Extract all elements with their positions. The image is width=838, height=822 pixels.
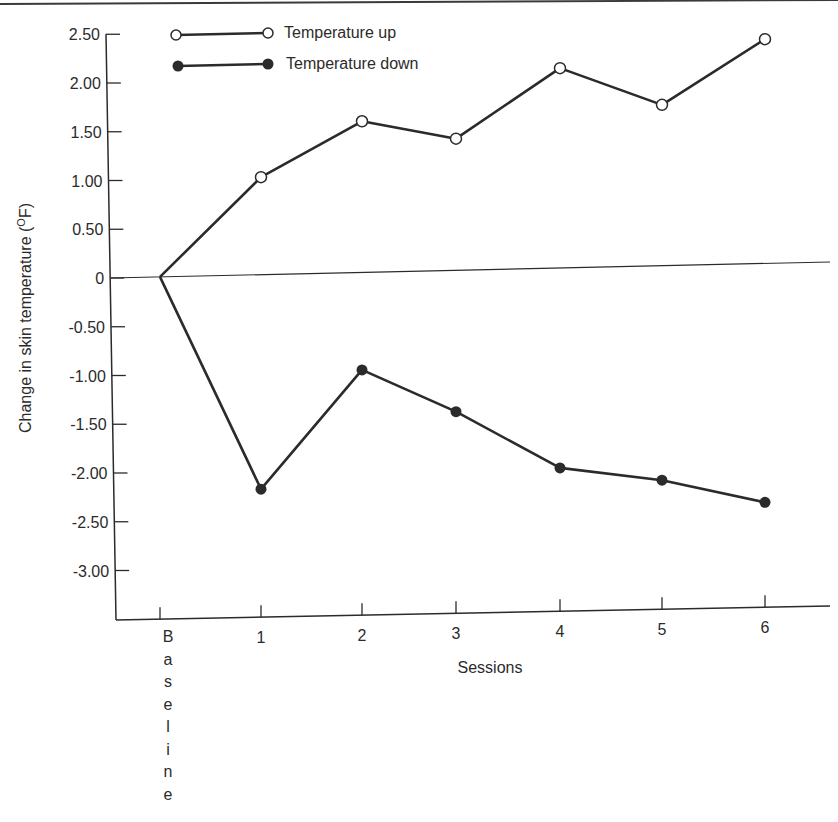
- line-chart: 2.502.001.501.000.500-0.50-1.00-1.50-2.0…: [0, 0, 838, 822]
- x-tick-label: 6: [761, 619, 770, 636]
- filled-circle-marker-icon: [555, 462, 566, 473]
- open-circle-marker-icon: [451, 133, 462, 144]
- x-tick-label: 5: [658, 621, 667, 638]
- open-circle-marker-icon: [760, 34, 771, 45]
- open-circle-marker-icon: [555, 63, 566, 74]
- page-top-border: [0, 0, 838, 4]
- x-axis: [116, 606, 830, 620]
- x-tick-label: 1: [257, 629, 266, 646]
- x-tick-label: 3: [452, 625, 461, 642]
- baseline-label-letter: B: [163, 628, 174, 645]
- y-tick-label: 2.50: [69, 26, 100, 43]
- baseline-label-letter: l: [166, 718, 170, 735]
- y-tick-label: 2.00: [70, 75, 101, 92]
- zero-line: [110, 262, 830, 278]
- y-tick-label: -0.50: [69, 319, 106, 336]
- legend-filled-circle-icon: [263, 59, 274, 70]
- open-circle-marker-icon: [357, 116, 368, 127]
- x-axis-ticks: 123456Baseline: [160, 595, 770, 802]
- legend-down-line: [178, 64, 268, 66]
- filled-circle-marker-icon: [256, 484, 267, 495]
- x-tick-label: 2: [358, 627, 367, 644]
- baseline-label-letter: s: [164, 673, 172, 690]
- x-axis-title: Sessions: [458, 659, 523, 676]
- series-line: [160, 39, 765, 277]
- baseline-label-letter: a: [164, 651, 173, 668]
- baseline-label-letter: e: [164, 786, 173, 803]
- y-tick-label: -1.50: [70, 416, 107, 433]
- legend-open-circle-icon: [263, 28, 273, 38]
- series-line: [160, 277, 765, 502]
- legend-open-circle-icon: [171, 30, 181, 40]
- filled-circle-marker-icon: [357, 364, 368, 375]
- series-temperature-down: [160, 277, 771, 508]
- y-tick-label: -2.00: [71, 465, 108, 482]
- baseline-label-letter: n: [164, 763, 173, 780]
- x-tick-label: 4: [556, 623, 565, 640]
- baseline-label-letter: i: [166, 741, 170, 758]
- legend-down-label: Temperature down: [286, 55, 419, 72]
- legend: Temperature up Temperature down: [171, 24, 419, 72]
- y-tick-label: 0: [95, 270, 104, 287]
- filled-circle-marker-icon: [451, 406, 462, 417]
- filled-circle-marker-icon: [657, 475, 668, 486]
- open-circle-marker-icon: [657, 99, 668, 110]
- baseline-label-letter: e: [164, 696, 173, 713]
- y-tick-label: 1.50: [71, 124, 102, 141]
- legend-filled-circle-icon: [173, 61, 184, 72]
- filled-circle-marker-icon: [760, 497, 771, 508]
- y-tick-label: -1.00: [69, 368, 106, 385]
- y-tick-label: -2.50: [72, 514, 109, 531]
- legend-up-line: [176, 33, 268, 35]
- y-tick-label: 1.00: [71, 173, 102, 190]
- series-temperature-up: [160, 34, 771, 277]
- legend-up-label: Temperature up: [284, 24, 396, 41]
- y-tick-label: -3.00: [73, 563, 110, 580]
- open-circle-marker-icon: [256, 172, 267, 183]
- y-axis-ticks: 2.502.001.501.000.500-0.50-1.00-1.50-2.0…: [69, 26, 130, 579]
- y-axis-title: Change in skin temperature (OF): [15, 203, 34, 433]
- y-tick-label: 0.50: [72, 221, 103, 238]
